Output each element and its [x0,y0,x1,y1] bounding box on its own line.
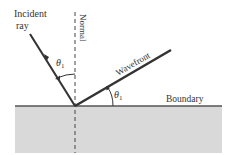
theta-wavefront-label: θ1 [114,89,123,102]
incident-ray [30,34,75,106]
normal-label: Normal [78,14,88,42]
incident-label-line1: Incident [14,8,47,19]
theta-incident-label: θ1 [56,57,65,70]
boundary-label: Boundary [166,94,204,104]
incident-label-line2: ray [16,20,29,31]
wavefront-angle-arc [108,88,113,106]
wavefront-line [75,50,171,106]
medium-region [15,106,222,153]
refraction-diagram: Incident ray Normal Wavefront Boundary θ… [0,0,230,155]
